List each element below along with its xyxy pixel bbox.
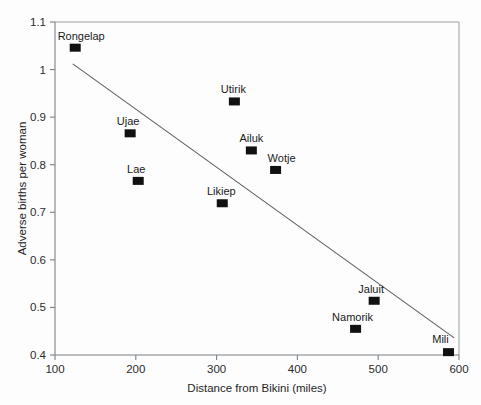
data-point-marker	[133, 177, 144, 185]
data-point-label: Lae	[127, 163, 145, 175]
x-axis-title: Distance from Bikini (miles)	[187, 382, 326, 394]
chart-figure: 0.40.50.60.70.80.911.1100200300400500600…	[0, 0, 481, 405]
y-tick-label: 1	[40, 64, 46, 76]
trend-line	[73, 64, 454, 338]
data-point-label: Namorik	[332, 311, 373, 323]
data-point: Mili	[432, 333, 454, 356]
x-tick-label: 300	[207, 363, 226, 375]
data-point: Jaluit	[358, 283, 384, 305]
data-point: Likiep	[207, 185, 236, 207]
data-point-label: Mili	[432, 333, 449, 345]
data-point-label: Ailuk	[239, 132, 263, 144]
data-point-label: Likiep	[207, 185, 236, 197]
plot-frame	[55, 22, 459, 355]
data-point-marker	[270, 166, 281, 174]
data-point-marker	[125, 129, 136, 137]
data-point-label: Rongelap	[58, 30, 105, 42]
data-point-marker	[246, 146, 257, 154]
y-tick-label: 1.1	[30, 16, 46, 28]
x-tick-label: 400	[288, 363, 307, 375]
x-tick-label: 200	[126, 363, 145, 375]
data-point: Ailuk	[239, 132, 263, 154]
data-point-label: Utirik	[221, 83, 247, 95]
y-tick-label: 0.8	[30, 159, 46, 171]
y-tick-label: 0.5	[30, 301, 46, 313]
data-point-label: Jaluit	[358, 283, 384, 295]
data-point: Lae	[127, 163, 145, 185]
data-point: Rongelap	[58, 30, 105, 52]
y-tick-label: 0.9	[30, 111, 46, 123]
x-tick-label: 500	[369, 363, 388, 375]
y-axis-title: Adverse births per woman	[16, 122, 28, 256]
data-point: Namorik	[332, 311, 373, 333]
data-point-label: Wotje	[268, 152, 296, 164]
x-tick-label: 600	[449, 363, 468, 375]
scatter-plot: 0.40.50.60.70.80.911.1100200300400500600…	[0, 0, 481, 405]
data-point: Ujae	[117, 115, 140, 137]
data-point-marker	[369, 297, 380, 305]
data-point-marker	[229, 97, 240, 105]
y-tick-label: 0.7	[30, 206, 46, 218]
y-tick-label: 0.6	[30, 254, 46, 266]
data-point-marker	[217, 199, 228, 207]
data-point: Wotje	[268, 152, 296, 174]
x-tick-label: 100	[45, 363, 64, 375]
data-point-marker	[350, 325, 361, 333]
data-point: Utirik	[221, 83, 247, 105]
y-tick-label: 0.4	[30, 349, 47, 361]
data-point-label: Ujae	[117, 115, 140, 127]
data-point-marker	[70, 44, 81, 52]
data-point-marker	[443, 348, 454, 356]
